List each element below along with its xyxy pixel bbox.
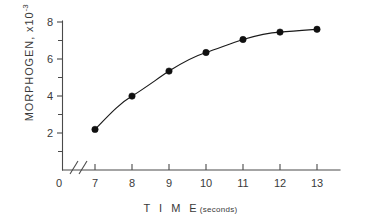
x-tick-label-12: 12 — [274, 177, 286, 189]
y-tick-label-2: 2 — [47, 127, 53, 139]
y-tick-label-8: 8 — [47, 16, 53, 28]
y-axis: 8 6 4 2 — [47, 16, 63, 170]
x-tick-label-10: 10 — [200, 177, 212, 189]
data-point-10 — [203, 49, 209, 55]
y-tick-label-4: 4 — [47, 90, 53, 102]
chart-figure: 8 6 4 2 0 7 8 9 10 11 12 13 — [0, 0, 381, 224]
x-axis-label: T I M E(seconds) — [0, 198, 381, 216]
y-axis-label-exponent: -3 — [21, 4, 30, 11]
data-series-morphogen — [92, 26, 320, 132]
x-tick-label-8: 8 — [129, 177, 135, 189]
data-point-7 — [92, 126, 98, 132]
x-axis-label-text: T I M E — [143, 202, 199, 214]
chart-plot-area: 8 6 4 2 0 7 8 9 10 11 12 13 — [0, 0, 381, 224]
axis-break-icon — [70, 161, 87, 174]
x-origin-label: 0 — [56, 177, 62, 189]
x-tick-label-7: 7 — [92, 177, 98, 189]
x-tick-label-13: 13 — [311, 177, 323, 189]
data-curve — [95, 29, 317, 129]
data-point-8 — [129, 93, 135, 99]
data-point-12 — [277, 29, 283, 35]
y-axis-label-text: MORPHOGEN, x10 — [23, 12, 35, 122]
data-point-13 — [314, 26, 320, 32]
data-point-11 — [240, 36, 246, 42]
x-tick-label-11: 11 — [237, 177, 248, 189]
x-axis: 0 7 8 9 10 11 12 13 — [56, 161, 340, 189]
x-tick-label-9: 9 — [166, 177, 172, 189]
y-tick-label-6: 6 — [47, 53, 53, 65]
data-point-9 — [166, 68, 172, 74]
y-axis-label: MORPHOGEN, x10-3 — [21, 0, 35, 143]
x-axis-label-unit: (seconds) — [200, 205, 238, 214]
